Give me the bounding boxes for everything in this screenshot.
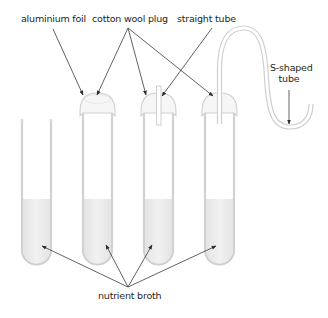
label-s-shaped-line2: tube xyxy=(270,73,308,84)
nutrient-broth-2 xyxy=(84,199,111,264)
test-tube-1-open xyxy=(20,119,52,265)
label-nutrient-broth: nutrient broth xyxy=(98,290,161,301)
straight-tube xyxy=(157,86,162,125)
nutrient-broth-1 xyxy=(23,199,50,263)
label-straight-tube: straight tube xyxy=(177,13,236,24)
arrow-nutrient-broth-3 xyxy=(128,245,152,287)
arrow-cotton-wool-3 xyxy=(128,28,213,96)
arrow-nutrient-broth-2 xyxy=(106,245,128,287)
arrow-straight-tube xyxy=(162,28,212,96)
test-tube-3-straight-tube xyxy=(141,86,176,265)
label-s-shaped-line1: S-shaped xyxy=(270,62,308,73)
arrow-cotton-wool-2 xyxy=(128,28,146,95)
nutrient-broth-4 xyxy=(206,199,233,264)
aluminium-foil-cap xyxy=(80,93,115,116)
nutrient-broth-3 xyxy=(145,199,172,264)
arrow-cotton-wool-1 xyxy=(97,28,128,95)
label-s-shaped-tube: S-shaped tube xyxy=(270,62,308,84)
test-tube-2-foil xyxy=(80,93,115,265)
pasteur-experiment-diagram xyxy=(0,0,328,318)
label-cotton-wool-plug: cotton wool plug xyxy=(92,13,168,24)
label-aluminium-foil: aluminium foil xyxy=(21,13,86,24)
arrow-aluminium-foil xyxy=(53,29,83,95)
